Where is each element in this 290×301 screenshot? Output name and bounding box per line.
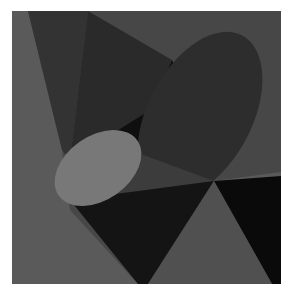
- abstract-geometric-artwork: [0, 0, 290, 301]
